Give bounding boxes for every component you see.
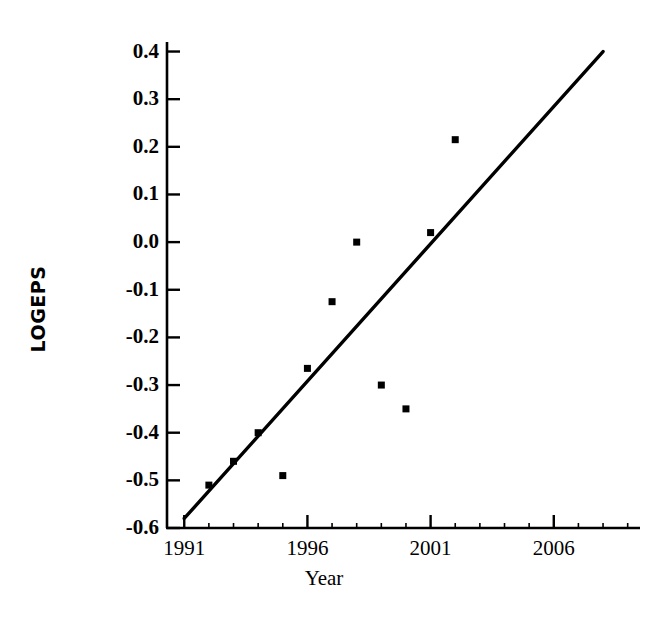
x-tick-label: 2006 bbox=[514, 538, 594, 559]
data-point-marker bbox=[427, 229, 434, 236]
y-tick-label: -0.5 bbox=[101, 469, 159, 490]
trend-line bbox=[184, 52, 603, 519]
y-axis-title-container: LOGEPS bbox=[8, 210, 68, 410]
x-tick-label: 1996 bbox=[267, 538, 347, 559]
x-tick-label: 1991 bbox=[144, 538, 224, 559]
data-point-marker bbox=[304, 365, 311, 372]
data-point-marker bbox=[255, 429, 262, 436]
x-axis-title: Year bbox=[244, 566, 404, 591]
y-axis-ticks bbox=[167, 52, 180, 528]
y-tick-label: 0.3 bbox=[101, 88, 159, 109]
data-point-marker bbox=[402, 405, 409, 412]
x-axis-ticks bbox=[184, 515, 627, 528]
data-point-marker bbox=[230, 458, 237, 465]
axis-lines bbox=[166, 42, 640, 528]
y-tick-label: -0.1 bbox=[101, 279, 159, 300]
data-points bbox=[205, 136, 458, 488]
y-tick-label: -0.6 bbox=[101, 517, 159, 538]
y-tick-label: 0.1 bbox=[101, 183, 159, 204]
data-point-marker bbox=[378, 382, 385, 389]
y-axis-title: LOGEPS bbox=[27, 209, 49, 409]
chart-figure: LOGEPS 0.40.30.20.10.0-0.1-0.2-0.3-0.4-0… bbox=[0, 0, 669, 617]
data-point-marker bbox=[452, 136, 459, 143]
data-point-marker bbox=[205, 482, 212, 489]
data-point-marker bbox=[329, 298, 336, 305]
y-tick-label: 0.4 bbox=[101, 41, 159, 62]
y-tick-label: 0.2 bbox=[101, 136, 159, 157]
trend-line-path bbox=[184, 52, 603, 519]
y-tick-label: 0.0 bbox=[101, 231, 159, 252]
y-tick-label: -0.2 bbox=[101, 326, 159, 347]
data-point-marker bbox=[279, 472, 286, 479]
x-tick-label: 2001 bbox=[391, 538, 471, 559]
data-point-marker bbox=[353, 239, 360, 246]
y-tick-label: -0.4 bbox=[101, 422, 159, 443]
y-tick-label: -0.3 bbox=[101, 374, 159, 395]
